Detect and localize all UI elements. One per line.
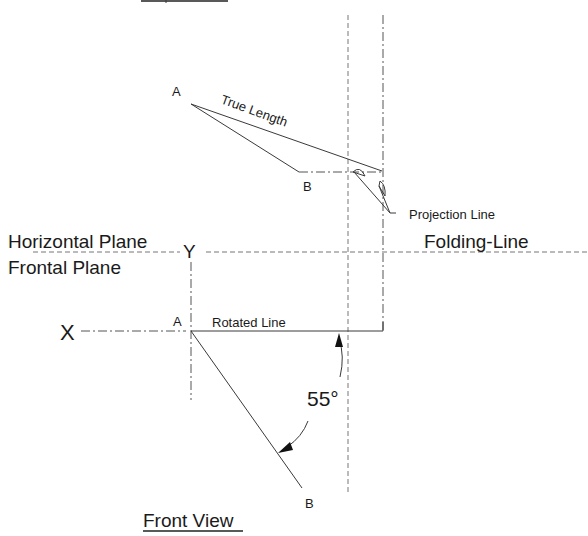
top-view-point-a-label: A — [172, 84, 181, 99]
frontal-plane-label: Frontal Plane — [8, 257, 121, 278]
front-view-title: Front View — [143, 510, 234, 531]
auxiliary-view-diagram: A True Length B Projection Line Horizont… — [0, 0, 588, 536]
y-label: Y — [183, 241, 196, 262]
horizontal-plane-label: Horizontal Plane — [8, 231, 147, 252]
angle-label: 55° — [307, 387, 339, 410]
rotated-line-label: Rotated Line — [212, 315, 286, 330]
x-label: X — [60, 320, 75, 345]
angle-arrowhead-up-icon — [335, 333, 343, 347]
projection-leader-1 — [354, 172, 396, 213]
folding-line-label: Folding-Line — [424, 231, 529, 252]
angle-arrowhead-down-icon — [278, 442, 293, 453]
leader-arrowhead-1-icon — [353, 169, 365, 176]
projection-line-label: Projection Line — [409, 207, 495, 222]
front-view-point-a-label: A — [173, 314, 182, 329]
front-view-point-b-label: B — [305, 496, 314, 511]
true-length-label: True Length — [219, 92, 290, 130]
front-view-line-ab — [191, 331, 302, 488]
top-view-point-b-label: B — [303, 179, 312, 194]
